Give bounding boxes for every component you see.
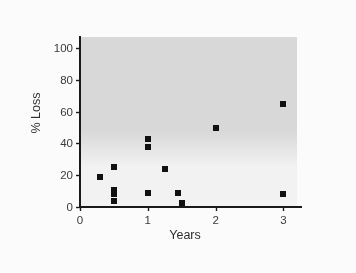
x-tick-label: 0 xyxy=(77,214,83,226)
data-point xyxy=(111,191,117,197)
data-point xyxy=(213,125,219,131)
data-point xyxy=(145,144,151,150)
x-tick-label: 3 xyxy=(280,214,286,226)
data-point xyxy=(111,164,117,170)
y-tick-label: 80 xyxy=(60,74,73,86)
data-point xyxy=(280,191,286,197)
scatter-plot-figure: % Loss Years 020406080100 0123 xyxy=(0,0,356,273)
x-tick-label: 2 xyxy=(212,214,218,226)
data-point xyxy=(97,174,103,180)
data-point xyxy=(145,136,151,142)
x-axis-title: Years xyxy=(80,228,290,242)
data-point xyxy=(175,190,181,196)
data-point xyxy=(162,166,168,172)
data-point xyxy=(111,198,117,204)
data-point xyxy=(179,200,185,206)
y-tick-label: 40 xyxy=(60,137,73,149)
y-tick-label: 60 xyxy=(60,106,73,118)
y-tick-label: 100 xyxy=(54,42,73,54)
y-axis-title: % Loss xyxy=(29,83,43,143)
y-tick-label: 20 xyxy=(60,169,73,181)
x-tick-label: 1 xyxy=(145,214,151,226)
data-point xyxy=(145,190,151,196)
data-point xyxy=(280,101,286,107)
y-tick-label: 0 xyxy=(67,201,73,213)
